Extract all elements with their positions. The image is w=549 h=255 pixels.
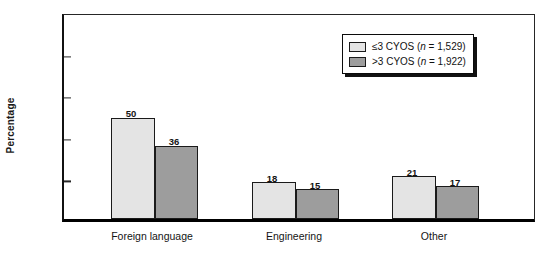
y-axis-title: Percentage (4, 70, 18, 180)
y-axis-title-text: Percentage (6, 97, 17, 153)
bar-chart: Percentage 100 80 60 40 20 0 ≤3 CYOS (n … (0, 0, 549, 255)
legend-label-lte3: ≤3 CYOS (n = 1,529) (372, 42, 466, 52)
bar-value-engineering-gt3: 15 (310, 181, 321, 191)
bar-engineering-lte3 (252, 182, 296, 219)
legend-swatch-lte3-icon (349, 42, 366, 52)
legend-label-lte3-prefix: ≤3 CYOS ( (372, 41, 420, 52)
bar-value-foreign-language-lte3: 50 (126, 109, 137, 119)
legend-label-gt3-suffix: = 1,922) (426, 56, 466, 67)
bar-foreign-language-lte3 (111, 118, 155, 220)
bar-value-engineering-lte3: 18 (267, 174, 278, 184)
x-category-label-foreign-language: Foreign language (111, 230, 193, 242)
x-category-label-engineering: Engineering (266, 230, 322, 242)
legend-item-lte3[interactable]: ≤3 CYOS (n = 1,529) (349, 39, 466, 54)
bar-engineering-gt3 (296, 189, 339, 220)
bar-value-other-lte3: 21 (407, 168, 418, 178)
bar-other-lte3 (392, 176, 436, 219)
bar-value-other-gt3: 17 (450, 178, 461, 188)
x-category-label-other: Other (421, 230, 447, 242)
y-tick-mark-40 (64, 139, 71, 140)
y-tick-mark-60 (64, 98, 71, 99)
bar-foreign-language-gt3 (155, 146, 198, 220)
legend-label-lte3-suffix: = 1,529) (426, 41, 466, 52)
legend-item-gt3[interactable]: >3 CYOS (n = 1,922) (349, 54, 466, 69)
legend-label-gt3: >3 CYOS (n = 1,922) (372, 57, 466, 67)
legend[interactable]: ≤3 CYOS (n = 1,529) >3 CYOS (n = 1,922) (342, 34, 474, 74)
legend-label-gt3-prefix: >3 CYOS ( (372, 56, 421, 67)
bar-value-foreign-language-gt3: 36 (169, 137, 180, 147)
y-tick-mark-20 (64, 181, 71, 182)
legend-swatch-gt3-icon (349, 57, 366, 67)
y-tick-mark-80 (64, 56, 71, 57)
bar-other-gt3 (436, 186, 479, 220)
